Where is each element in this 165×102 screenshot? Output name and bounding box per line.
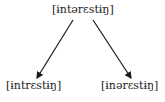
right-child-label: [ɨnərɛstɨŋ]: [101, 79, 158, 93]
arrow-to-left: [37, 20, 73, 78]
root-node-label: [ɨntərɛstɨŋ]: [52, 3, 114, 17]
left-child-label: [ɨntrɛstɨŋ]: [6, 79, 61, 93]
arrow-to-right: [93, 20, 131, 78]
